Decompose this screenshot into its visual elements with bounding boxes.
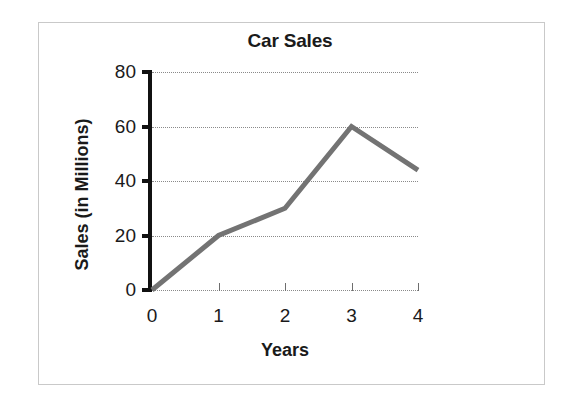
y-tick-label-60: 60	[88, 117, 136, 137]
plot-area	[152, 72, 418, 290]
x-tick-2	[285, 283, 286, 291]
gridline-80	[152, 72, 418, 73]
x-tick-label-0: 0	[137, 306, 167, 326]
y-tick-40	[142, 179, 152, 183]
y-tick-60	[142, 125, 152, 129]
x-axis-title: Years	[152, 340, 418, 361]
y-tick-0	[142, 288, 152, 292]
y-tick-80	[142, 70, 152, 74]
chart-figure: Car Sales Sales (in Millions) Years 80 6…	[0, 0, 575, 408]
y-tick-label-80: 80	[88, 62, 136, 82]
y-tick-20	[142, 234, 152, 238]
gridline-40	[152, 181, 418, 182]
x-tick-1	[219, 283, 220, 291]
x-tick-label-4: 4	[403, 306, 433, 326]
y-tick-label-0: 0	[88, 280, 136, 300]
gridline-20	[152, 236, 418, 237]
gridline-60	[152, 127, 418, 128]
x-tick-4	[418, 283, 419, 291]
y-tick-label-40: 40	[88, 171, 136, 191]
x-tick-3	[352, 283, 353, 291]
chart-title: Car Sales	[140, 30, 440, 52]
y-tick-label-20: 20	[88, 226, 136, 246]
x-tick-label-1: 1	[204, 306, 234, 326]
x-tick-label-3: 3	[337, 306, 367, 326]
y-axis-title: Sales (in Millions)	[72, 80, 93, 310]
x-tick-label-2: 2	[270, 306, 300, 326]
